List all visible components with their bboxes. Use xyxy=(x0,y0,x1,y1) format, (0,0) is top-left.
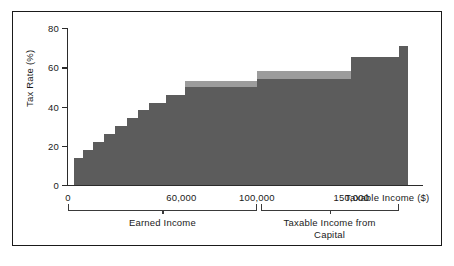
upper-band-segment-2 xyxy=(257,71,351,79)
x-axis-line xyxy=(68,185,423,186)
step-chart-svg xyxy=(68,28,408,185)
y-tick-label: 80 xyxy=(48,23,59,34)
bracket-capital-income-label: Taxable Income from Capital xyxy=(261,217,399,240)
bracket-capital-income xyxy=(261,204,399,211)
plot-area xyxy=(68,28,408,185)
x-tick-label: 100,000 xyxy=(239,192,275,203)
y-tick-label: 40 xyxy=(48,101,59,112)
figure-root: Tax Rate (%) Taxable Income ($) 02040608… xyxy=(0,0,454,266)
y-axis-title: Tax Rate (%) xyxy=(24,50,35,107)
x-tick-label: 150,000 xyxy=(333,192,369,203)
x-tick-label: 0 xyxy=(65,192,70,203)
y-tick-mark xyxy=(62,185,68,186)
bracket-capital-line1: Taxable Income from xyxy=(284,217,376,228)
bracket-earned-income xyxy=(68,204,257,211)
x-tick-label: 60,000 xyxy=(166,192,196,203)
upper-band-segment-1 xyxy=(185,81,257,87)
y-tick-label: 20 xyxy=(48,140,59,151)
bracket-capital-line2: Capital xyxy=(314,229,345,240)
tax-rate-step-area xyxy=(74,46,408,185)
y-tick-label: 60 xyxy=(48,62,59,73)
bracket-earned-income-label: Earned Income xyxy=(68,217,257,229)
y-tick-label: 0 xyxy=(54,180,59,191)
